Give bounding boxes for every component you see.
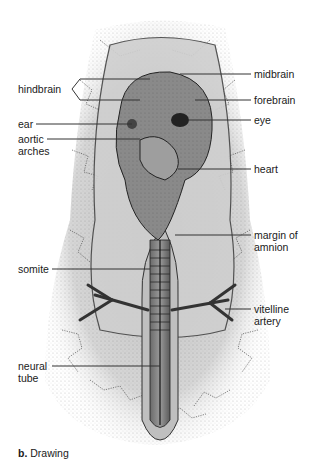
label-midbrain: midbrain [254, 68, 294, 80]
label-vitelline-line2: artery [254, 315, 289, 327]
label-vitelline-line1: vitelline [254, 303, 289, 315]
label-somite: somite [18, 263, 49, 275]
label-neural-tube: neural tube [18, 360, 47, 384]
caption-prefix: b. [18, 447, 27, 459]
label-aortic-line1: aortic [18, 133, 50, 145]
label-heart: heart [254, 163, 278, 175]
label-neural-line1: neural [18, 360, 47, 372]
label-vitelline-artery: vitelline artery [254, 303, 289, 327]
label-hindbrain: hindbrain [18, 83, 61, 95]
label-forebrain: forebrain [254, 94, 295, 106]
label-margin-line2: amnion [254, 241, 298, 253]
label-margin-line1: margin of [254, 229, 298, 241]
label-eye: eye [254, 114, 271, 126]
label-neural-line2: tube [18, 372, 47, 384]
caption-text: Drawing [30, 447, 69, 459]
label-aortic-arches: aortic arches [18, 133, 50, 157]
label-margin-of-amnion: margin of amnion [254, 229, 298, 253]
label-aortic-line2: arches [18, 145, 50, 157]
figure-caption: b. Drawing [18, 447, 69, 459]
label-ear: ear [18, 118, 33, 130]
